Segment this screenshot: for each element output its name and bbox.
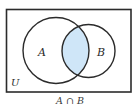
set-a-label: A	[37, 46, 46, 59]
set-b-label: B	[96, 46, 105, 59]
diagram-caption: A ∩ B	[55, 95, 84, 106]
venn-diagram: A B U A ∩ B	[0, 0, 138, 108]
universe-label: U	[11, 77, 20, 88]
